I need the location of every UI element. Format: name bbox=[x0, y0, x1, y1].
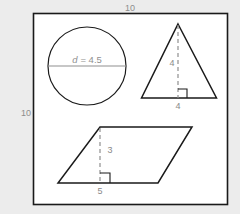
figure-canvas: 10 10 d= 4.5 4 4 3 5 bbox=[0, 0, 240, 214]
geometry-figure: 10 10 d= 4.5 4 4 3 5 bbox=[0, 0, 240, 214]
parallelogram-height-label: 3 bbox=[107, 145, 112, 155]
triangle-height-label: 4 bbox=[169, 58, 174, 68]
circle-diameter-label: d= 4.5 bbox=[72, 54, 102, 65]
circle-diameter-value: = 4.5 bbox=[80, 54, 101, 65]
parallelogram-base-label: 5 bbox=[97, 186, 102, 196]
top-dimension-label: 10 bbox=[125, 3, 135, 13]
triangle-base-label: 4 bbox=[175, 101, 180, 111]
left-dimension-label: 10 bbox=[21, 108, 31, 118]
circle-diameter-symbol: d bbox=[72, 54, 78, 65]
